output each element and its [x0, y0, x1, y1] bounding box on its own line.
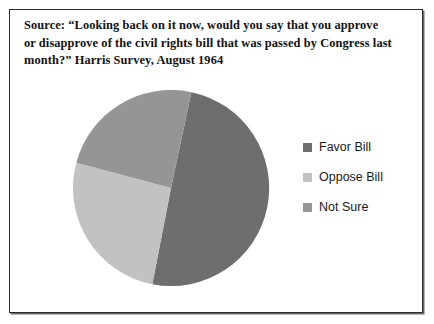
legend-swatch-icon-oppose-bill — [303, 173, 312, 182]
legend-swatch-icon-not-sure — [303, 203, 312, 212]
legend-swatch-icon-favor-bill — [303, 143, 312, 152]
legend-item-oppose-bill: Oppose Bill — [303, 162, 423, 192]
legend-label-oppose-bill: Oppose Bill — [319, 170, 383, 184]
legend-label-favor-bill: Favor Bill — [319, 140, 371, 154]
legend-item-not-sure: Not Sure — [303, 192, 423, 222]
legend-item-favor-bill: Favor Bill — [303, 132, 423, 162]
legend-label-not-sure: Not Sure — [319, 200, 368, 214]
chart-legend: Favor Bill Oppose Bill Not Sure — [303, 132, 423, 222]
pie-slice-group — [73, 90, 269, 286]
pie-chart-area: Favor Bill Oppose Bill Not Sure — [0, 0, 434, 324]
figure-container: Source: “Looking back on it now, would y… — [0, 0, 434, 324]
pie-chart — [72, 89, 270, 287]
